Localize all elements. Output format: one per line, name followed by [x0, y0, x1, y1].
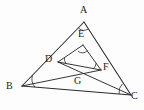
vertex-label-C: C [131, 91, 138, 101]
geometry-canvas [0, 0, 144, 110]
geometry-figure: A B C D E F G [0, 0, 144, 110]
vertex-label-E: E [78, 29, 84, 39]
vertex-label-D: D [45, 54, 52, 64]
segment-EF [83, 45, 101, 70]
vertex-label-A: A [80, 5, 87, 15]
angle-mark-C [119, 84, 122, 94]
segment-DF [58, 62, 101, 70]
angle-mark-E [78, 51, 88, 53]
angle-mark-B [32, 75, 35, 87]
angle-mark-D [64, 58, 65, 64]
segment-DE [58, 45, 83, 62]
segment-BF [22, 70, 101, 86]
angle-mark-F [93, 63, 96, 68]
vertex-label-B: B [6, 81, 13, 91]
vertex-label-F: F [103, 62, 109, 72]
vertex-label-G: G [74, 76, 81, 86]
